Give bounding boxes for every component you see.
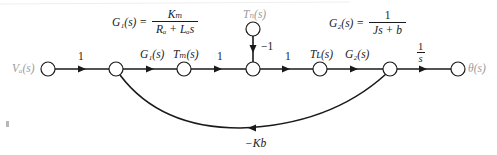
label-integrator-den: s [417, 52, 425, 65]
label-integrator-num: 1 [416, 41, 425, 52]
scan-artifact-mark [6, 121, 9, 127]
formula-g1-lhs: G₁(s) = [112, 16, 147, 28]
label-branch-1: 1 [78, 51, 84, 63]
feedback-branch-curve [120, 74, 386, 128]
label-torque-motor: Tₘ(s) [173, 49, 199, 61]
formula-g2: G₂(s) = 1 Js + b [329, 9, 406, 37]
formula-g2-fraction: 1 Js + b [369, 9, 406, 37]
arrow-icon [250, 45, 257, 53]
formula-g2-denominator: Js + b [369, 22, 406, 37]
label-output: θ(s) [468, 63, 486, 75]
label-branch-4: 1 [285, 51, 291, 63]
label-torque-load: Tʟ(s) [310, 49, 333, 61]
formula-g2-numerator: 1 [381, 9, 395, 22]
node-velocity [383, 62, 397, 76]
formula-g1: G₁(s) = Kₘ Rₐ + Lₐs [112, 8, 198, 36]
arrow-icon [282, 66, 290, 73]
label-branch-3: 1 [217, 51, 223, 63]
node-disturbance [246, 22, 260, 36]
graph-canvas [0, 0, 497, 155]
label-disturbance-gain: −1 [261, 41, 273, 53]
node-2 [109, 62, 123, 76]
arrow-icon [214, 66, 222, 73]
label-branch-g1: G₁(s) [140, 49, 164, 61]
label-feedback-text: −Kb [245, 137, 266, 149]
formula-g1-numerator: Kₘ [164, 8, 187, 21]
label-feedback: −Kb [245, 138, 266, 150]
label-disturbance: Tₙ(s) [243, 9, 266, 21]
node-input [41, 62, 55, 76]
arrow-icon [78, 66, 86, 73]
formula-g1-fraction: Kₘ Rₐ + Lₐs [152, 8, 198, 36]
node-torque-motor [177, 62, 191, 76]
formula-g2-lhs: G₂(s) = [329, 17, 364, 29]
scan-artifact-line [0, 2, 350, 4]
arrow-icon [419, 66, 427, 73]
label-input: Vₐ(s) [12, 63, 35, 75]
arrow-icon [248, 125, 256, 132]
node-summing [246, 62, 260, 76]
label-branch-g2: G₂(s) [345, 49, 369, 61]
node-output [451, 62, 465, 76]
formula-g1-denominator: Rₐ + Lₐs [152, 21, 198, 36]
arrow-icon [146, 66, 154, 73]
label-integrator: 1 s [416, 41, 425, 65]
node-torque-load [313, 62, 327, 76]
arrow-icon [350, 66, 358, 73]
signal-flow-graph: G₁(s) = Kₘ Rₐ + Lₐs G₂(s) = 1 Js + b Vₐ(… [0, 0, 497, 155]
